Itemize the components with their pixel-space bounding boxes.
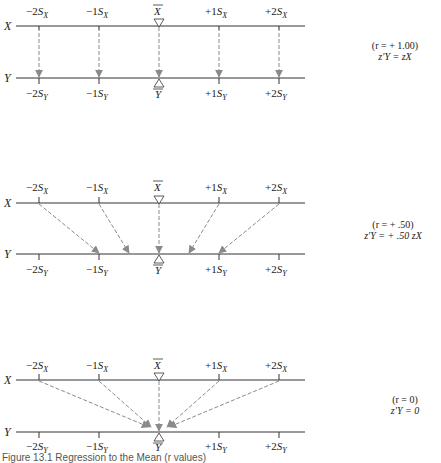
- annotation-line-2: z′Y = 0: [380, 405, 430, 416]
- annotation-line-1: (r = + 1.00): [350, 40, 440, 51]
- svg-text:X: X: [3, 373, 12, 387]
- mean-y-triangle: [154, 79, 164, 87]
- svg-text:+2SY: +2SY: [265, 440, 288, 455]
- svg-text:+1SY: +1SY: [205, 263, 228, 278]
- panel-r-zero: X Y −2SX −1SX X +1SX +2SX −2SY −1SY Y +1…: [3, 359, 305, 455]
- panel-r-plus-050: X Y −2SX −1SX X +1SX +2SX −2SY −1SY Y +1…: [3, 181, 305, 278]
- svg-text:+1SX: +1SX: [205, 181, 228, 196]
- svg-text:+1SX: +1SX: [205, 5, 228, 20]
- figure-caption: Figure 13.1 Regression to the Mean (r va…: [2, 452, 206, 463]
- svg-text:+2SY: +2SY: [265, 87, 288, 102]
- svg-text:+2SX: +2SX: [265, 181, 288, 196]
- svg-text:+2SX: +2SX: [265, 359, 288, 374]
- annotation-line-2: z′Y = zX: [350, 51, 440, 62]
- svg-text:−1SY: −1SY: [86, 263, 109, 278]
- annotation-line-1: (r = + .50): [345, 219, 441, 230]
- svg-text:−1SY: −1SY: [86, 87, 109, 102]
- annotation-r-plus-1: (r = + 1.00) z′Y = zX: [350, 40, 440, 62]
- svg-text:−2SY: −2SY: [26, 87, 49, 102]
- svg-text:X: X: [153, 181, 162, 193]
- svg-text:+2SY: +2SY: [265, 263, 288, 278]
- panel-r-plus-1: X Y −2SX −1SX X +1SX +2SX −2SY −1SY Y +1…: [3, 5, 305, 102]
- annotation-r-plus-050: (r = + .50) z′Y = + .50 zX: [345, 219, 441, 241]
- svg-text:Y: Y: [155, 264, 163, 276]
- svg-text:Y: Y: [155, 88, 163, 100]
- svg-text:X: X: [153, 359, 162, 371]
- annotation-r-zero: (r = 0) z′Y = 0: [380, 394, 430, 416]
- svg-text:−2SX: −2SX: [26, 181, 49, 196]
- svg-text:Y: Y: [4, 425, 12, 439]
- svg-text:−1SX: −1SX: [86, 359, 109, 374]
- svg-text:−2SX: −2SX: [26, 5, 49, 20]
- svg-text:+1SY: +1SY: [205, 87, 228, 102]
- svg-text:−2SX: −2SX: [26, 359, 49, 374]
- x-axis-label: X: [3, 19, 12, 33]
- y-axis-label: Y: [4, 71, 12, 85]
- svg-text:−1SX: −1SX: [86, 5, 109, 20]
- svg-text:Y: Y: [4, 247, 12, 261]
- regression-arrows: [39, 27, 279, 77]
- svg-text:+1SX: +1SX: [205, 359, 228, 374]
- svg-text:−2SY: −2SY: [26, 263, 49, 278]
- annotation-line-1: (r = 0): [380, 394, 430, 405]
- svg-text:+2SX: +2SX: [265, 5, 288, 20]
- svg-text:−1SX: −1SX: [86, 181, 109, 196]
- svg-text:+1SY: +1SY: [205, 440, 228, 455]
- svg-text:X: X: [153, 5, 162, 17]
- annotation-line-2: z′Y = + .50 zX: [345, 230, 441, 241]
- svg-text:X: X: [3, 196, 12, 210]
